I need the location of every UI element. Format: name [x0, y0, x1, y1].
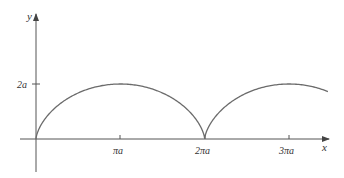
cycloid-curve: [36, 84, 328, 139]
tick-label-2pi-a: 2πa: [195, 145, 210, 156]
tick-label-2a: 2a: [17, 79, 27, 90]
cycloid-diagram: y x 2a πa 2πa 3πa: [0, 0, 344, 178]
x-axis-label: x: [321, 141, 327, 153]
tick-label-3pi-a: 3πa: [278, 145, 294, 156]
y-axis-label: y: [26, 10, 32, 22]
tick-label-pi-a: πa: [113, 145, 123, 156]
